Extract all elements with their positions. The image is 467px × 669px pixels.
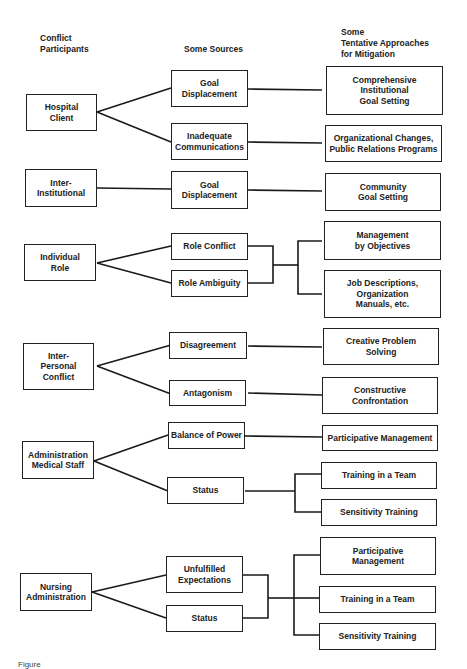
participant-administration-medical-staff: Administration Medical Staff: [22, 441, 94, 479]
source-unfulfilled-expectations: Unfulfilled Expectations: [166, 556, 243, 593]
source-role-ambiguity: Role Ambiguity: [171, 270, 248, 297]
source-balance-of-power: Balance of Power: [168, 422, 245, 449]
approach-community-goal-setting: Community Goal Setting: [325, 173, 441, 211]
source-role-conflict: Role Conflict: [171, 233, 248, 260]
header-conflict-participants: Conflict Participants: [40, 33, 89, 55]
approach-sensitivity-training-2: Sensitivity Training: [319, 623, 436, 650]
source-status-2: Status: [166, 605, 243, 632]
source-goal-displacement-2: Goal Displacement: [171, 171, 248, 209]
approach-job-descriptions: Job Descriptions, Organization Manuals, …: [324, 270, 441, 318]
approach-training-in-a-team: Training in a Team: [321, 462, 437, 489]
participant-nursing-administration: Nursing Administration: [20, 573, 92, 611]
approach-participative-management-2: Participative Management: [320, 537, 436, 575]
approach-creative-problem-solving: Creative Problem Solving: [323, 328, 439, 365]
source-antagonism: Antagonism: [169, 380, 246, 406]
source-goal-displacement: Goal Displacement: [171, 70, 248, 107]
header-some-sources: Some Sources: [184, 44, 243, 55]
approach-participative-management: Participative Management: [322, 425, 438, 451]
header-mitigation-approaches: Some Tentative Approaches for Mitigation: [341, 27, 429, 60]
participant-inter-personal-conflict: Inter- Personal Conflict: [23, 343, 94, 390]
participant-hospital-client: Hospital Client: [26, 94, 97, 131]
source-disagreement: Disagreement: [169, 332, 247, 359]
source-inadequate-communications: Inadequate Communications: [171, 123, 248, 160]
approach-constructive-confrontation: Constructive Confrontation: [322, 377, 438, 414]
approach-training-in-a-team-2: Training in a Team: [319, 586, 436, 613]
approach-management-by-objectives: Management by Objectives: [324, 221, 441, 260]
figure-caption: Figure: [18, 660, 41, 669]
source-status: Status: [167, 477, 244, 504]
participant-individual-role: Individual Role: [24, 244, 96, 281]
participant-inter-institutional: Inter- Institutional: [25, 169, 97, 207]
approach-organizational-changes: Organizational Changes, Public Relations…: [325, 125, 442, 162]
approach-sensitivity-training: Sensitivity Training: [321, 499, 437, 526]
approach-comprehensive-goal-setting: Comprehensive Institutional Goal Setting: [326, 66, 443, 115]
